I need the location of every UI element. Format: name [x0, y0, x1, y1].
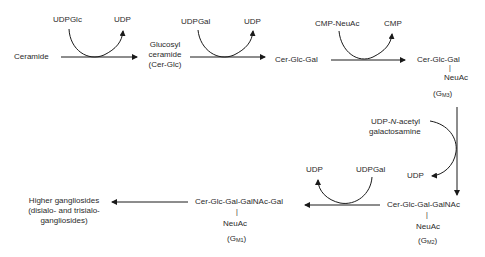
node-gm1-name: (GM1): [227, 234, 246, 245]
cofactor-udp-2: UDP: [244, 17, 261, 27]
node-glccer-line2: ceramide: [140, 50, 190, 60]
cofactor-udp-1: UDP: [114, 15, 131, 25]
node-glucosyl-ceramide: Glucosyl ceramide (Cer-Glc): [140, 40, 190, 70]
gm2-bond: |: [426, 210, 428, 220]
node-ceramide: Ceramide: [14, 52, 49, 62]
higher-line3: gangliosides): [22, 216, 106, 226]
higher-line1: Higher gangliosides: [22, 196, 106, 206]
gm1-bond: |: [236, 207, 238, 217]
node-gm2-name: (GM2): [418, 236, 437, 247]
cofactor-curve-5: [318, 177, 372, 203]
cofactor-curve-3: [339, 31, 392, 59]
cofactor-udpgal-1: UDPGal: [181, 17, 210, 27]
higher-line2: (disialo- and trisialo-: [22, 206, 106, 216]
cofactor-cmp: CMP: [384, 19, 402, 29]
node-gm3-chain: Cer-Glc-Gal: [417, 55, 460, 65]
node-gm2-neuac: NeuAc: [416, 222, 440, 232]
node-cer-glc-gal: Cer-Glc-Gal: [275, 55, 318, 65]
cofactor-curve-2: [198, 30, 253, 57]
cofactor-udpglc: UDPGlc: [53, 15, 82, 25]
cofactor-galactosamine: galactosamine: [369, 127, 421, 137]
gm3-bond: |: [449, 63, 451, 73]
cofactor-udp-4: UDP: [407, 171, 424, 181]
node-higher-gangliosides: Higher gangliosides (disialo- and trisia…: [22, 196, 106, 226]
node-gm2-chain: Cer-Glc-Gal-GalNAc: [387, 200, 460, 210]
cofactor-udp-5: UDP: [306, 165, 323, 175]
node-gm1-chain: Cer-Glc-Gal-GalNAc-Gal: [195, 197, 283, 207]
cofactor-curve-1: [69, 29, 123, 57]
node-gm3-neuac: NeuAc: [444, 73, 468, 83]
cofactor-udp-galnac: UDP-N-acetyl: [371, 117, 420, 127]
node-gm1-neuac: NeuAc: [223, 219, 247, 229]
node-glccer-line1: Glucosyl: [140, 40, 190, 50]
cofactor-curve-4: [430, 121, 456, 176]
node-glccer-line3: (Cer-Glc): [140, 60, 190, 70]
cofactor-cmp-neuac: CMP-NeuAc: [315, 19, 359, 29]
node-gm3-name: (GM3): [433, 89, 452, 100]
cofactor-udpgal-2: UDPGal: [356, 165, 385, 175]
